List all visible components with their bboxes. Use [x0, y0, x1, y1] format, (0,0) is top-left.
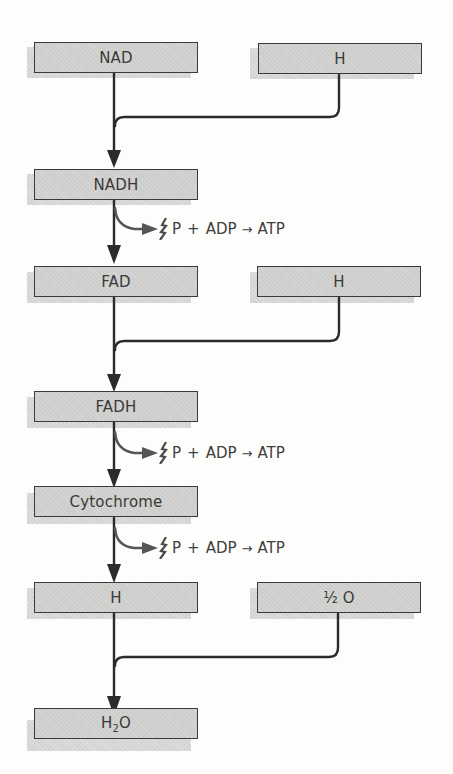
box-h2o: H2O: [34, 708, 198, 739]
plus-sign: +: [187, 539, 200, 557]
product-atp: ATP: [257, 539, 284, 557]
h-to-fadh-line: [115, 298, 339, 350]
atp-reaction-3: P + ADP → ATP: [159, 537, 285, 559]
box-fad: FAD: [34, 266, 198, 297]
box-half-o: ½ O: [257, 582, 421, 613]
plus-sign: +: [187, 220, 200, 238]
energy-bolt-icon: [159, 442, 169, 464]
box-label: FADH: [95, 398, 136, 416]
product-atp: ATP: [257, 220, 284, 238]
energy-bolt-icon: [159, 218, 169, 240]
box-label: H2O: [101, 714, 131, 734]
atp-branch-arrow-2: [115, 432, 146, 453]
plus-sign: +: [187, 444, 200, 462]
reactant-adp: ADP: [206, 220, 237, 238]
box-label: NADH: [93, 176, 138, 194]
reaction-arrow-icon: →: [241, 541, 252, 556]
box-nadh: NADH: [34, 169, 198, 200]
energy-bolt-icon: [159, 537, 169, 559]
reactant-p: P: [172, 539, 181, 557]
product-atp: ATP: [257, 444, 284, 462]
atp-branch-arrow-3: [115, 528, 146, 548]
h-to-nadh-line: [115, 75, 339, 126]
box-label: FAD: [101, 273, 131, 291]
electron-transport-diagram: NAD H NADH FAD H FADH Cytochrome H ½ O H…: [0, 0, 453, 774]
box-h-2: H: [257, 266, 421, 297]
atp-reaction-2: P + ADP → ATP: [159, 442, 285, 464]
reaction-arrow-icon: →: [241, 446, 252, 461]
box-h-1: H: [258, 43, 422, 74]
atp-branch-arrow-1: [115, 208, 146, 229]
box-fadh: FADH: [34, 391, 198, 422]
reactant-adp: ADP: [206, 539, 237, 557]
box-label: H: [333, 273, 344, 291]
box-h-3: H: [34, 582, 198, 613]
box-label: Cytochrome: [69, 493, 162, 511]
reactant-adp: ADP: [206, 444, 237, 462]
reactant-p: P: [172, 220, 181, 238]
box-label: H: [334, 50, 345, 68]
box-label: NAD: [99, 49, 133, 67]
box-nad: NAD: [34, 42, 198, 73]
connector-lines: [0, 0, 453, 774]
box-label: ½ O: [323, 589, 355, 607]
reactant-p: P: [172, 444, 181, 462]
reaction-arrow-icon: →: [241, 222, 252, 237]
atp-reaction-1: P + ADP → ATP: [159, 218, 285, 240]
box-label: H: [110, 589, 121, 607]
box-cytochrome: Cytochrome: [34, 486, 198, 517]
half-o-to-h2o-line: [115, 614, 338, 666]
